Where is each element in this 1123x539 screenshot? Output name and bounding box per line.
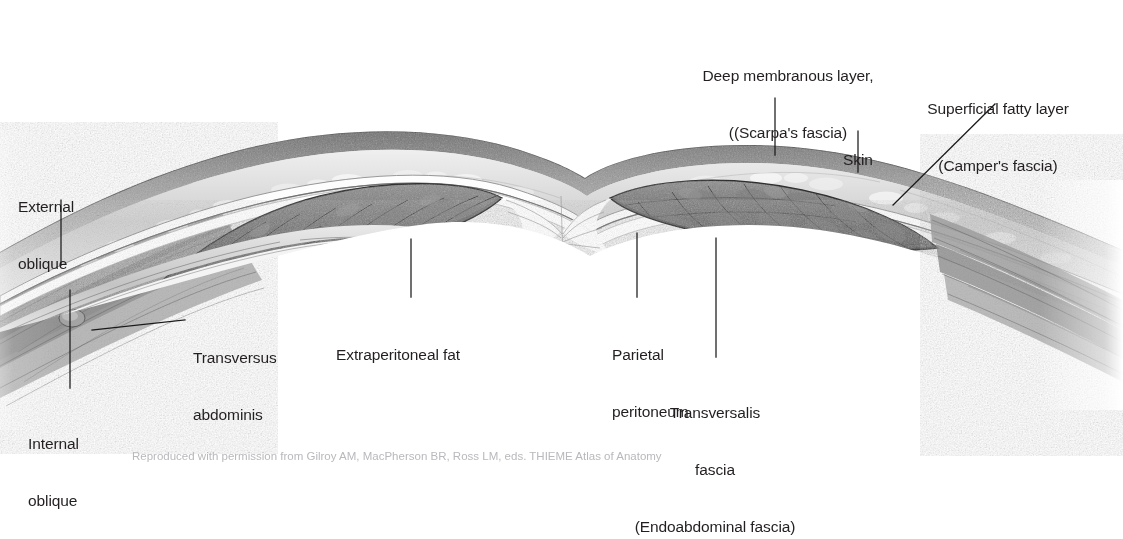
label-line: Internal bbox=[28, 434, 128, 453]
label-extraperitoneal-fat: Extraperitoneal fat bbox=[336, 307, 526, 402]
label-line: oblique bbox=[18, 254, 118, 273]
label-line: Transversalis bbox=[600, 403, 830, 422]
label-line: Deep membranous layer, bbox=[668, 66, 908, 85]
label-line: abdominis bbox=[193, 405, 333, 424]
label-external-oblique: External oblique bbox=[18, 159, 118, 311]
source-caption: Reproduced with permission from Gilroy A… bbox=[0, 452, 1123, 463]
label-line: External bbox=[18, 197, 118, 216]
label-line: (Endoabdominal fascia) bbox=[600, 517, 830, 536]
label-line: oblique bbox=[28, 491, 128, 510]
label-line: Transversus bbox=[193, 348, 333, 367]
label-internal-oblique: Internal oblique bbox=[28, 396, 128, 539]
label-line: Extraperitoneal fat bbox=[336, 345, 526, 364]
label-transversus-abdominis: Transversus abdominis bbox=[193, 310, 333, 462]
label-line: Parietal bbox=[612, 345, 742, 364]
source-caption-text: Reproduced with permission from Gilroy A… bbox=[132, 452, 662, 463]
label-line: Skin bbox=[829, 150, 887, 169]
label-line: (Camper's fascia) bbox=[898, 156, 1098, 175]
label-skin: Skin bbox=[829, 112, 887, 207]
label-line: Superficial fatty layer bbox=[898, 99, 1098, 118]
label-superficial-fatty-layer: Superficial fatty layer (Camper's fascia… bbox=[898, 61, 1098, 213]
